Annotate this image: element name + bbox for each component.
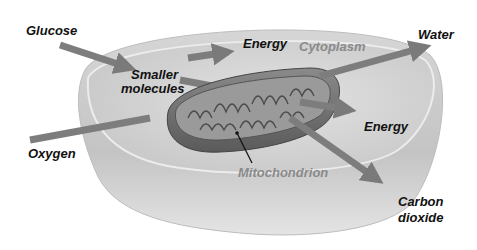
label-oxygen: Oxygen	[28, 146, 76, 161]
label-glucose: Glucose	[26, 23, 77, 38]
label-energy-top: Energy	[243, 36, 287, 51]
label-mitochondrion: Mitochondrion	[238, 165, 328, 180]
label-water: Water	[418, 27, 454, 42]
label-carbon-dioxide-line1: Carbon	[398, 194, 444, 209]
label-cytoplasm: Cytoplasm	[299, 39, 365, 54]
label-carbon-dioxide-line2: dioxide	[398, 210, 444, 225]
label-smaller-molecules-line2: molecules	[121, 81, 185, 96]
label-energy-right: Energy	[364, 119, 408, 134]
label-smaller-molecules-line1: Smaller	[131, 67, 178, 82]
cellular-respiration-diagram: Glucose Smaller molecules Energy Cytopla…	[0, 0, 477, 250]
